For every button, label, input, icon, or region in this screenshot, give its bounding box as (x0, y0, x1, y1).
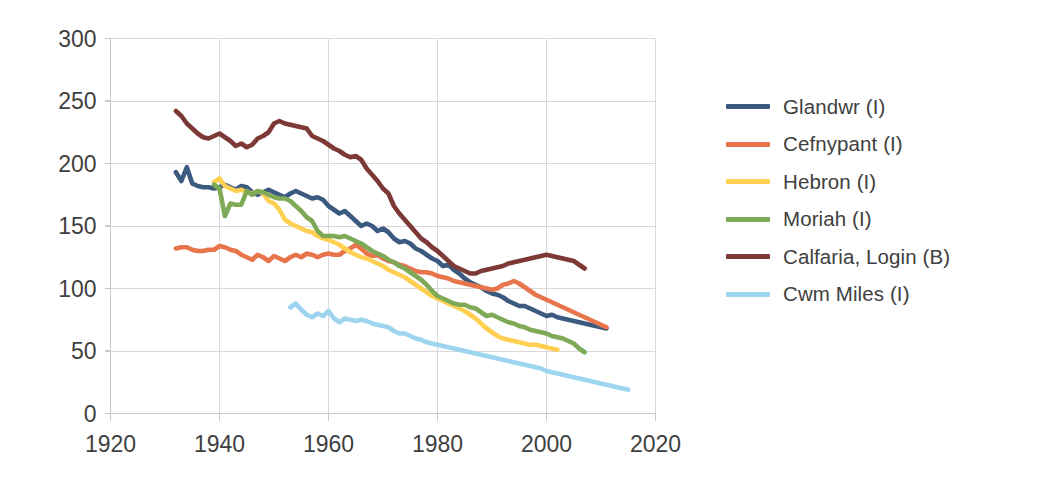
x-axis-tick-label: 1960 (303, 431, 354, 457)
legend-item[interactable]: Hebron (I) (726, 163, 1038, 201)
y-axis-tick-label: 300 (58, 26, 96, 52)
chart-container: 050100150200250300 192019401960198020002… (0, 0, 1046, 484)
legend-item-label: Cwm Miles (I) (783, 282, 910, 306)
y-axis-tick-label: 0 (84, 401, 97, 427)
legend-color-swatch-icon (726, 254, 770, 259)
legend-color-swatch-icon (726, 104, 770, 109)
x-axis-tick-label: 2020 (630, 431, 681, 457)
legend-item[interactable]: Cefnypant (I) (726, 126, 1038, 164)
legend-item-label: Hebron (I) (783, 170, 876, 194)
y-axis-tick-label: 200 (58, 151, 96, 177)
x-axis-tick-label: 2000 (521, 431, 572, 457)
legend-item-label: Calfaria, Login (B) (783, 245, 950, 269)
plot-area-wrapper: 050100150200250300 192019401960198020002… (0, 0, 700, 484)
x-axis-tick-label: 1940 (194, 431, 245, 457)
series-group (176, 111, 628, 390)
legend-item[interactable]: Calfaria, Login (B) (726, 238, 1038, 276)
line-chart-svg: 050100150200250300 192019401960198020002… (0, 0, 700, 484)
x-axis-labels-group: 192019401960198020002020 (85, 431, 681, 457)
legend-color-swatch-icon (726, 179, 770, 184)
legend-color-swatch-icon (726, 142, 770, 147)
legend-item-label: Glandwr (I) (783, 95, 885, 119)
x-axis-tick-label: 1980 (412, 431, 463, 457)
legend-item[interactable]: Glandwr (I) (726, 88, 1038, 126)
legend-item[interactable]: Cwm Miles (I) (726, 276, 1038, 314)
y-axis-labels-group: 050100150200250300 (58, 26, 96, 427)
y-axis-tick-label: 100 (58, 276, 96, 302)
legend-color-swatch-icon (726, 292, 770, 297)
legend-item-label: Moriah (I) (783, 207, 872, 231)
y-axis-tick-label: 150 (58, 213, 96, 239)
legend-item-label: Cefnypant (I) (783, 132, 903, 156)
legend-item[interactable]: Moriah (I) (726, 201, 1038, 239)
y-axis-tick-label: 50 (71, 338, 97, 364)
legend-color-swatch-icon (726, 217, 770, 222)
gridlines-group (111, 39, 656, 414)
x-axis-tick-label: 1920 (85, 431, 136, 457)
y-axis-tick-label: 250 (58, 88, 96, 114)
chart-legend: Glandwr (I) Cefnypant (I) Hebron (I) Mor… (726, 88, 1038, 313)
